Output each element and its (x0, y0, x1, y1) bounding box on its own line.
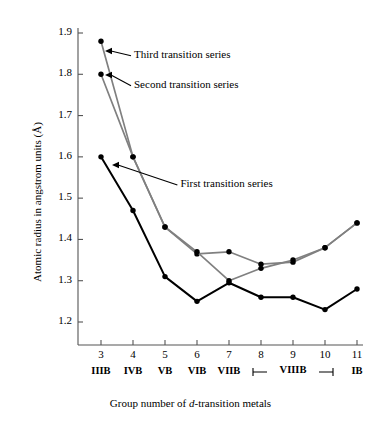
data-point (98, 39, 103, 44)
y-tick-label: 1.3 (42, 273, 72, 285)
x-tick-label: 7 (214, 348, 244, 360)
y-tick-label: 1.4 (42, 231, 72, 243)
data-point (194, 249, 199, 254)
data-point (290, 257, 295, 262)
x-tick-label: 8 (246, 348, 276, 360)
annotation-label-third-transition-series: Third transition series (134, 48, 231, 60)
y-tick-label: 1.8 (42, 66, 72, 78)
x-axis-title: Group number of d-transition metals (0, 397, 381, 409)
data-point (258, 266, 263, 271)
y-tick-label: 1.9 (42, 25, 72, 37)
data-point (354, 286, 359, 291)
x-tick-label: 11 (342, 348, 372, 360)
y-tick-label: 1.2 (42, 314, 72, 326)
x-tick-label: 9 (278, 348, 308, 360)
data-point (258, 295, 263, 300)
data-point (130, 208, 135, 213)
data-point (162, 224, 167, 229)
group-label-iiib: IIIB (83, 365, 119, 376)
group-label-viib: VIIB (211, 365, 247, 376)
x-tick-label: 10 (310, 348, 340, 360)
data-point (226, 249, 231, 254)
data-point (98, 72, 103, 77)
chart-annotations (105, 48, 177, 185)
x-axis-title-part1: Group number of (110, 397, 189, 409)
y-tick-label: 1.5 (42, 190, 72, 202)
x-tick-label: 6 (182, 348, 212, 360)
chart-figure: Atomic radius in angstrom units (Å) Grou… (0, 0, 381, 430)
annotation-arrow-icon (112, 162, 119, 168)
data-point (226, 280, 231, 285)
data-point (322, 245, 327, 250)
group-label-vib: VIB (179, 365, 215, 376)
viiib-bracket-label: VIIIB (269, 364, 317, 375)
y-tick-label: 1.7 (42, 108, 72, 120)
annotation-label-second-transition-series: Second transition series (134, 78, 238, 90)
y-tick-label: 1.6 (42, 149, 72, 161)
data-point (162, 274, 167, 279)
annotation-label-first-transition-series: First transition series (180, 177, 272, 189)
data-point (290, 295, 295, 300)
group-label-ivb: IVB (115, 365, 151, 376)
annotation-leader-line (111, 75, 131, 86)
data-point (194, 299, 199, 304)
data-point (322, 307, 327, 312)
group-label-ib: IB (339, 365, 375, 376)
x-tick-label: 5 (150, 348, 180, 360)
annotation-arrow-icon (105, 48, 112, 54)
data-point (98, 154, 103, 159)
data-point (130, 154, 135, 159)
annotation-leader-line (111, 51, 131, 56)
group-label-vb: VB (147, 365, 183, 376)
annotation-arrow-icon (105, 72, 112, 78)
annotation-leader-line (118, 165, 177, 185)
x-tick-label: 4 (118, 348, 148, 360)
x-axis-title-part2: -transition metals (194, 397, 271, 409)
x-tick-label: 3 (86, 348, 116, 360)
data-point (354, 220, 359, 225)
